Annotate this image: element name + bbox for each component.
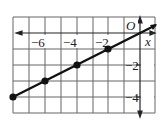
x-tick-label-minus4: −4 bbox=[63, 35, 77, 50]
y-tick-label-minus4: −4 bbox=[125, 90, 139, 105]
x-tick-label-minus6: −6 bbox=[31, 35, 45, 50]
point-m8-m4 bbox=[9, 93, 16, 100]
x-axis-label: x bbox=[144, 34, 151, 49]
origin-label: O bbox=[126, 18, 136, 33]
coordinate-graph: −6 −4 −2 x O −2 −4 bbox=[0, 0, 163, 134]
point-m2-m1 bbox=[104, 45, 111, 52]
point-m6-m3 bbox=[41, 77, 48, 84]
point-m4-m2 bbox=[73, 61, 80, 68]
y-tick-label-minus2: −2 bbox=[125, 58, 139, 73]
